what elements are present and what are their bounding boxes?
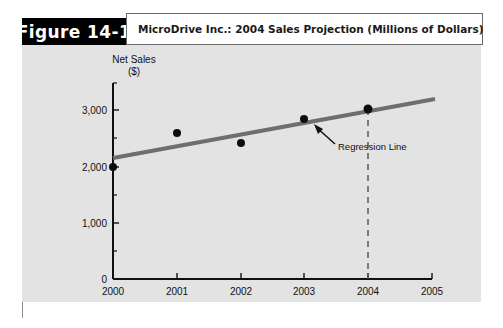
data-point-2002 [237,139,245,147]
figure-number-label: Figure 14-1 [17,22,132,42]
figure-number-badge: Figure 14-1 [22,18,126,45]
regression-annotation-arrow [314,124,335,144]
data-point-2003 [300,115,308,123]
data-point-2000 [109,163,117,171]
x-tick-label-2005: 2005 [421,286,444,297]
x-tick-label-2004: 2004 [357,286,380,297]
y-tick-label-3000: 3,000 [82,105,107,116]
y-tick-label-2000: 2,000 [82,162,107,173]
chart-plot-area: Net Sales ($) 0 1,000 2,000 3,000 [22,45,481,302]
x-tick-label-2002: 2002 [230,286,253,297]
figure-title-label: MicroDrive Inc.: 2004 Sales Projection (… [127,23,484,35]
data-point-2004 [364,105,373,114]
figure-title-box: MicroDrive Inc.: 2004 Sales Projection (… [126,13,483,45]
x-tick-label-2003: 2003 [293,286,316,297]
data-points [109,105,373,172]
y-axis-title-line1: Net Sales [112,54,155,65]
y-tick-label-0: 0 [101,274,107,285]
data-point-2001 [173,129,181,137]
y-axis-title-line2: ($) [128,66,140,77]
regression-annotation-label: Regression Line [338,141,407,152]
scatter-chart: Net Sales ($) 0 1,000 2,000 3,000 [22,45,481,302]
x-tick-label-2001: 2001 [166,286,189,297]
y-tick-label-1000: 1,000 [82,218,107,229]
x-tick-label-2000: 2000 [102,286,125,297]
